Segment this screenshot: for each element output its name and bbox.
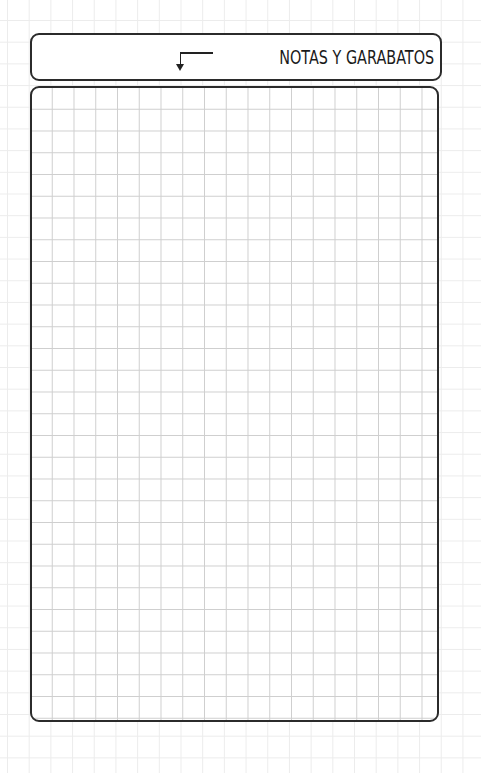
notes-grid-area[interactable] (30, 86, 439, 722)
page-title: NOTAS Y GARABATOS (279, 45, 434, 69)
arrow-down-left-icon (177, 45, 213, 71)
header-box: NOTAS Y GARABATOS (30, 33, 442, 81)
title-wrap: NOTAS Y GARABATOS (177, 45, 434, 71)
